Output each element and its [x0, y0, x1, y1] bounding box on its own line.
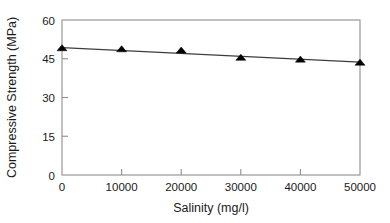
x-tick-labels: 0 10000 20000 30000 40000 50000: [59, 181, 376, 193]
x-tick-label-50000: 50000: [344, 181, 376, 193]
y-tick-label-30: 30: [42, 92, 55, 104]
y-tick-label-15: 15: [42, 131, 55, 143]
x-tick-label-0: 0: [59, 181, 65, 193]
y-tick-labels: 60 45 30 15 0: [42, 15, 55, 182]
x-tick-label-40000: 40000: [284, 181, 316, 193]
data-point-marker: [236, 54, 246, 60]
trend-line: [62, 48, 360, 62]
y-tick-label-60: 60: [42, 15, 55, 27]
data-point-marker: [117, 46, 127, 52]
y-tick-label-0: 0: [49, 170, 55, 182]
x-tick-label-20000: 20000: [165, 181, 197, 193]
chart-figure: 60 45 30 15 0 0 10000 20000 30000 40000 …: [0, 0, 390, 223]
plot-frame: [62, 20, 360, 175]
data-point-marker: [176, 47, 186, 53]
y-axis-title: Compressive Strength (MPa): [5, 17, 19, 178]
y-tick-label-45: 45: [42, 53, 55, 65]
x-tick-label-30000: 30000: [225, 181, 257, 193]
x-axis-title: Salinity (mg/l): [173, 201, 249, 215]
y-axis-ticks: [62, 59, 68, 137]
data-series-layer: [57, 45, 365, 66]
chart-plot-area: 60 45 30 15 0 0 10000 20000 30000 40000 …: [0, 0, 390, 223]
x-tick-label-10000: 10000: [106, 181, 138, 193]
x-axis-ticks: [122, 169, 301, 175]
